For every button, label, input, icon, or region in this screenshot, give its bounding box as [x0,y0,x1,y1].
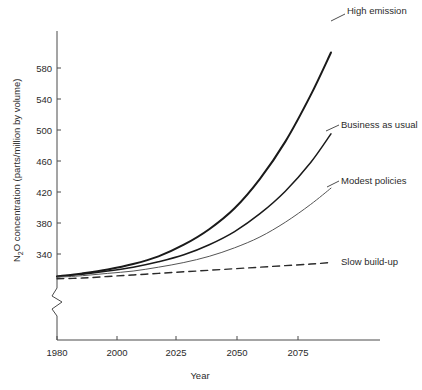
label-leader-lines [326,14,345,187]
y-tick-label-420: 420 [36,187,52,198]
series-curve-high-emission [57,53,331,277]
y-tick-labels: 580 540 500 460 420 380 340 [36,63,52,260]
y-axis-title: N2O concentration (parts/million by volu… [11,79,24,262]
x-tick-label-2050: 2050 [226,347,247,358]
y-tick-marks [57,68,61,254]
n2o-concentration-chart: 580 540 500 460 420 380 340 1980 2000 20… [0,0,422,390]
y-axis-break-zigzag [52,288,62,340]
x-tick-label-2025: 2025 [165,347,186,358]
leader-high-emission [331,14,345,21]
x-tick-marks [57,336,298,340]
x-tick-label-2075: 2075 [287,347,308,358]
y-tick-label-540: 540 [36,94,52,105]
series-label-slow-build-up: Slow build-up [341,256,398,267]
y-tick-label-340: 340 [36,249,52,260]
series-labels-group: High emission Business as usual Modest p… [341,5,418,267]
y-axis-title-post: O concentration (parts/million by volume… [11,79,22,252]
series-curve-modest-policies [57,188,331,277]
chart-canvas: 580 540 500 460 420 380 340 1980 2000 20… [0,0,422,390]
x-axis-title: Year [190,370,209,381]
series-label-modest-policies: Modest policies [341,175,407,186]
leader-business-as-usual [326,125,339,131]
x-tick-label-2000: 2000 [106,347,127,358]
series-curve-business-as-usual [57,134,331,277]
x-tick-label-1980: 1980 [46,347,67,358]
series-label-business-as-usual: Business as usual [341,119,418,130]
series-label-high-emission: High emission [347,5,407,16]
x-tick-labels: 1980 2000 2025 2050 2075 [46,347,308,358]
y-tick-label-500: 500 [36,125,52,136]
y-tick-label-580: 580 [36,63,52,74]
y-axis [52,31,62,340]
leader-modest-policies [327,181,339,187]
y-tick-label-380: 380 [36,218,52,229]
y-tick-label-460: 460 [36,156,52,167]
svg-text:N2O concentration (parts/milli: N2O concentration (parts/million by volu… [11,79,24,262]
data-series-group [57,53,331,279]
